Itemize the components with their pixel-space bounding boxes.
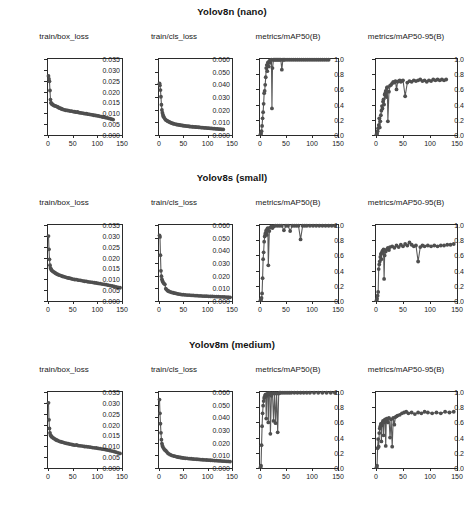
data-point: [260, 443, 264, 447]
y-tick-label: 0.0: [322, 132, 344, 139]
x-tick-label: 100: [91, 473, 103, 480]
y-tick-label: 0.030: [195, 427, 230, 434]
plot-area: [259, 58, 339, 136]
y-tick-label: 1.0: [322, 222, 344, 229]
y-tick-mark: [372, 89, 375, 90]
y-tick-mark: [155, 97, 158, 98]
y-tick-mark: [256, 225, 259, 226]
x-tick-mark: [97, 301, 98, 304]
x-tick-mark: [312, 135, 313, 138]
data-point: [288, 229, 292, 233]
plot-area: [259, 391, 339, 469]
x-tick-mark: [403, 135, 404, 138]
y-tick-label: 0.0: [322, 465, 344, 472]
data-point: [280, 68, 284, 72]
data-point: [48, 257, 52, 261]
y-tick-label: 0.005: [86, 287, 120, 294]
y-tick-label: 0.035: [86, 56, 120, 63]
y-tick-mark: [44, 446, 47, 447]
y-tick-label: 0.040: [195, 81, 230, 88]
y-tick-label: 0.2: [322, 449, 344, 456]
data-point: [271, 66, 275, 70]
data-point: [316, 391, 320, 395]
x-tick-mark: [159, 135, 160, 138]
chart-title: metrics/mAP50-95(B): [348, 198, 464, 207]
x-tick-mark: [457, 301, 458, 304]
y-tick-mark: [155, 405, 158, 406]
y-tick-mark: [155, 225, 158, 226]
x-tick-label: 50: [282, 306, 290, 313]
x-tick-mark: [183, 135, 184, 138]
data-point: [378, 119, 382, 123]
y-tick-mark: [44, 425, 47, 426]
x-tick-mark: [286, 301, 287, 304]
y-tick-label: 0.015: [86, 432, 120, 439]
y-tick-label: 0.000: [195, 298, 230, 305]
y-tick-mark: [155, 122, 158, 123]
x-tick-label: 50: [179, 306, 187, 313]
data-point: [435, 411, 439, 415]
data-point: [382, 277, 386, 281]
series-line: [261, 60, 329, 134]
y-tick-label: 0.030: [195, 260, 230, 267]
axes-area: 0.00.20.40.60.81.0050100150: [232, 46, 344, 144]
y-tick-label: 0.4: [442, 434, 464, 441]
x-tick-label: 50: [399, 140, 407, 147]
axes-area: 0.0000.0050.0100.0150.0200.0250.0300.035…: [8, 46, 120, 144]
data-point: [382, 433, 386, 437]
x-tick-label: 0: [258, 473, 262, 480]
y-tick-mark: [155, 110, 158, 111]
y-tick-label: 1.0: [322, 56, 344, 63]
y-tick-label: 0.015: [86, 99, 120, 106]
y-tick-label: 0.8: [442, 237, 464, 244]
y-tick-mark: [44, 392, 47, 393]
data-point: [299, 238, 303, 242]
x-tick-label: 0: [46, 473, 50, 480]
x-tick-mark: [183, 301, 184, 304]
y-tick-mark: [372, 468, 375, 469]
y-tick-mark: [372, 422, 375, 423]
data-point: [160, 438, 164, 442]
data-point: [392, 423, 396, 427]
x-tick-label: 50: [282, 140, 290, 147]
data-point: [407, 411, 411, 415]
x-tick-mark: [376, 301, 377, 304]
data-point: [442, 244, 446, 248]
y-tick-mark: [155, 288, 158, 289]
data-point: [261, 116, 265, 120]
x-tick-mark: [430, 468, 431, 471]
y-tick-mark: [372, 240, 375, 241]
x-tick-label: 50: [179, 473, 187, 480]
data-point: [158, 235, 162, 239]
data-point: [159, 422, 163, 426]
data-point: [377, 431, 381, 435]
y-tick-mark: [372, 438, 375, 439]
y-tick-mark: [155, 468, 158, 469]
y-tick-label: 0.010: [86, 443, 120, 450]
x-tick-mark: [457, 468, 458, 471]
data-point: [160, 103, 164, 107]
y-tick-mark: [256, 468, 259, 469]
y-tick-mark: [372, 74, 375, 75]
data-point: [48, 79, 52, 83]
data-point: [276, 430, 280, 434]
y-tick-mark: [256, 135, 259, 136]
y-tick-label: 0.6: [322, 86, 344, 93]
y-tick-label: 0.030: [86, 66, 120, 73]
data-point: [47, 234, 51, 238]
y-tick-label: 0.035: [86, 222, 120, 229]
x-tick-mark: [73, 468, 74, 471]
data-point: [158, 411, 162, 415]
row-title-2: Yolov8s (small): [0, 172, 464, 183]
y-tick-label: 0.0: [322, 298, 344, 305]
data-point: [384, 95, 388, 99]
x-tick-mark: [73, 135, 74, 138]
data-point: [444, 78, 448, 82]
axes-area: 0.00.20.40.60.81.0050100150: [348, 379, 464, 477]
data-point: [263, 83, 267, 87]
y-tick-mark: [44, 70, 47, 71]
x-tick-label: 100: [91, 140, 103, 147]
y-tick-mark: [44, 135, 47, 136]
y-tick-label: 1.0: [442, 389, 464, 396]
y-tick-label: 0.025: [86, 77, 120, 84]
